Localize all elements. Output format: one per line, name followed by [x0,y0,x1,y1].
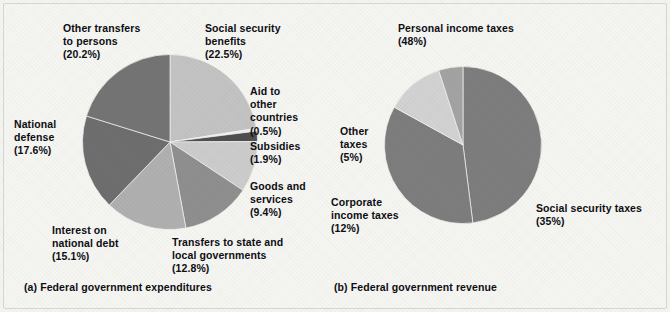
figure-pie-charts-federal-budget: Other transfers to persons (20.2%) Socia… [0,0,670,312]
pie-slice-personal-income-taxes [463,67,541,223]
pie-label-goods-and-services: Goods and services (9.4%) [250,180,306,220]
pie-label-social-security-benefits: Social security benefits (22.5%) [205,22,281,62]
pie-label-personal-income-taxes: Personal income taxes (48%) [398,22,514,48]
pie-label-interest-on-national-debt: Interest on national debt (15.1%) [52,224,119,264]
pie-label-social-security-taxes: Social security taxes (35%) [536,202,642,228]
pie-label-other-taxes: Other taxes (5%) [340,125,369,165]
pie-label-subsidies: Subsidies (1.9%) [250,140,301,166]
pie-label-other-transfers-to-persons: Other transfers to persons (20.2%) [63,22,140,62]
pie-slice-social-security-benefits [170,55,256,143]
pie-label-transfers-to-state-and-local-governments: Transfers to state and local governments… [172,236,283,276]
pie-chart-revenue-svg [384,66,542,224]
pie-chart-expenditures [82,54,258,230]
caption-panel-b: (b) Federal government revenue [334,281,497,293]
pie-label-corporate-income-taxes: Corporate income taxes (12%) [331,196,399,236]
pie-chart-expenditures-svg [82,54,258,230]
caption-panel-a: (a) Federal government expenditures [24,281,212,293]
pie-chart-revenue [384,66,542,224]
pie-label-aid-to-other-countries: Aid to other countries (0.5%) [250,85,298,138]
pie-label-national-defense: National defense (17.6%) [14,118,56,158]
